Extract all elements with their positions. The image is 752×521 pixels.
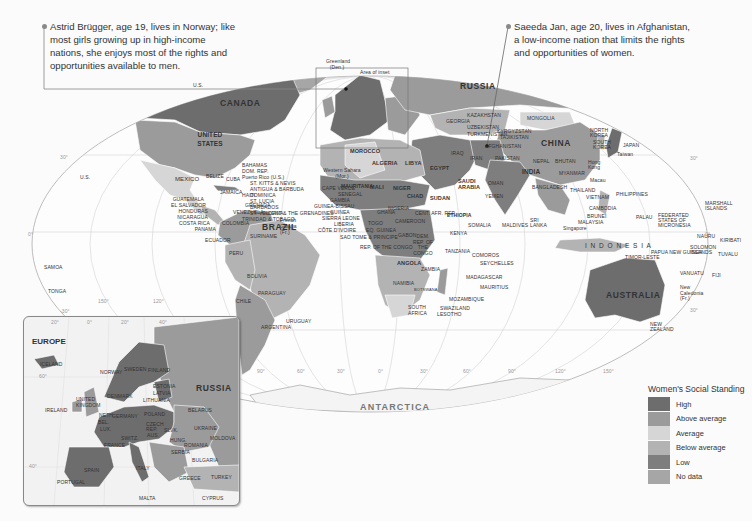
label-angola: ANGOLA <box>397 260 421 266</box>
degree-90e: 90° <box>508 368 516 374</box>
inset-label-sweden: SWEDEN <box>124 366 147 372</box>
label-us-alaska: U.S. <box>193 82 203 88</box>
legend-item-low: Low <box>648 455 744 470</box>
label-chile: CHILE <box>236 298 251 304</box>
label-new-zealand: NEW ZEALAND <box>650 322 670 332</box>
legend-item-average: Average <box>648 426 744 441</box>
label-maldives: MALDIVES <box>502 222 528 228</box>
callout-line: nations, she enjoys most of the rights a… <box>50 46 290 59</box>
label-sudan: SUDAN <box>430 195 450 201</box>
label-ecuador: ECUADOR <box>205 237 231 243</box>
label-mozambique: MOZAMBIQUE <box>449 296 484 302</box>
legend-label: Below average <box>676 443 726 452</box>
label-gabon: GABON <box>398 232 417 238</box>
label-south-korea: SOUTH KOREA <box>593 140 613 150</box>
label-yemen: YEMEN <box>485 193 503 199</box>
label-iran: IRAN <box>470 155 482 161</box>
central-america-labels: GUATEMALA EL SALVADOR HONDURAS NICARAGUA… <box>164 196 204 232</box>
label-niger: NIGER <box>393 185 411 191</box>
label-new-caledonia: New Caledonia (Fr.) <box>680 285 702 302</box>
inset-title: EUROPE <box>32 337 66 346</box>
label-vanuatu: VANUATU <box>680 270 704 276</box>
label-suriname: SURINAME <box>250 233 277 239</box>
label-sri-lanka: SRI LANKA <box>530 218 546 228</box>
inset-label-latvia: LATVIA <box>153 390 170 396</box>
inset-label-lux: LUX. <box>100 426 112 432</box>
inset-label-germany: GERMANY <box>112 413 138 419</box>
inset-label-estonia: ESTONIA <box>153 383 176 389</box>
label-somalia: SOMALIA <box>468 222 491 228</box>
inset-label-turkey: TURKEY <box>211 474 232 480</box>
inset-label-ireland: IRELAND <box>45 407 67 413</box>
label-togo: TOGO <box>368 220 383 226</box>
alaska <box>100 84 160 112</box>
label-bangladesh: BANGLADESH <box>532 184 567 190</box>
label-eq-guinea: EQ. GUINEA <box>366 227 396 233</box>
label-mauritius: MAURITIUS <box>480 284 508 290</box>
legend-swatch <box>648 412 670 426</box>
legend-label: High <box>676 400 691 409</box>
label-algeria: ALGERIA <box>372 160 397 166</box>
label-egypt: EGYPT <box>430 165 449 171</box>
label-philippines: PHILIPPINES <box>616 191 648 197</box>
inset-label-switz: SWITZ. <box>121 435 139 441</box>
label-india: INDIA <box>522 168 540 175</box>
label-comoros: COMOROS <box>472 252 499 258</box>
label-lesotho: LESOTHO <box>437 311 462 317</box>
west-africa-labels: CAPE VERDE SENEGAL GAMBIA GUINEA-BISSAU … <box>300 185 340 233</box>
inset-degree-20e: 20° <box>121 319 129 325</box>
legend-label: No data <box>676 472 702 481</box>
inset-label-denmark: DENMARK <box>107 393 133 399</box>
label-oman: OMAN <box>488 180 503 186</box>
label-mongolia: MONGOLIA <box>527 115 555 121</box>
callout-line: opportunities available to men. <box>50 59 290 72</box>
label-madagascar: MADAGASCAR <box>466 274 503 280</box>
label-cameroon: CAMEROON <box>395 218 425 224</box>
legend-swatch <box>648 426 670 440</box>
degree-0-right: 0° <box>705 231 710 237</box>
label-cent-afr-rep: CENT. AFR. REP. <box>415 210 456 216</box>
label-singapore: Singapore <box>563 225 587 231</box>
label-peru: PERU <box>229 250 243 256</box>
label-samoa: SAMOA <box>44 264 63 270</box>
legend-swatch <box>648 441 670 455</box>
inset-label-france: FRANCE <box>104 442 125 448</box>
label-area-of-inset: Area of inset <box>360 69 389 75</box>
inset-label-serbia: SERBIA <box>171 449 190 455</box>
legend-item-below-average: Below average <box>648 441 744 456</box>
label-tonga: TONGA <box>48 288 66 294</box>
legend-item-no-data: No data <box>648 470 744 485</box>
label-marshall-islands: MARSHALL ISLANDS <box>705 201 733 211</box>
label-botswana: BOTSWANA <box>414 287 438 292</box>
label-tanzania: TANZANIA <box>445 248 470 254</box>
inset-label-norway: NORWAY <box>100 369 122 375</box>
legend-label: Above average <box>676 414 726 423</box>
degree-30s-right: 30° <box>690 307 698 313</box>
inset-italy <box>129 442 149 482</box>
label-timor-leste: TIMOR-LESTE <box>625 254 660 260</box>
legend-swatch <box>648 455 670 469</box>
inset-label-italy: ITALY <box>136 465 150 471</box>
label-fiji: FIJI <box>712 272 721 278</box>
inset-label-aus: AUS. <box>147 432 159 438</box>
inset-degree-40n: 40° <box>29 463 37 469</box>
label-seychelles: SEYCHELLES <box>480 260 514 266</box>
label-chad: CHAD <box>407 193 423 199</box>
legend-label: Average <box>676 429 704 438</box>
label-greenland: Greenland (Den.) <box>326 58 348 70</box>
degree-60e: 60° <box>463 368 471 374</box>
label-mali: MALI <box>370 184 384 190</box>
legend-item-high: High <box>648 397 744 412</box>
label-micronesia: FEDERATED STATES OF MICRONESIA <box>658 213 706 228</box>
label-argentina: ARGENTINA <box>261 324 291 330</box>
label-kazakhstan: KAZAKHSTAN <box>467 112 501 118</box>
inset-label-bulgaria: BULGARIA <box>192 457 218 463</box>
inset-label-malta: MALTA <box>139 495 155 501</box>
inset-label-romania: ROMANIA <box>184 442 208 448</box>
callout-line: Astrid Brügger, age 19, lives in Norway;… <box>50 20 290 33</box>
inset-label-greece: GREECE <box>179 475 201 481</box>
legend-swatch <box>648 470 670 484</box>
inset-label-belarus: BELARUS <box>188 407 212 413</box>
label-us-hawaii: U.S. <box>80 174 90 180</box>
inset-label-portugal: PORTUGAL <box>57 479 85 485</box>
